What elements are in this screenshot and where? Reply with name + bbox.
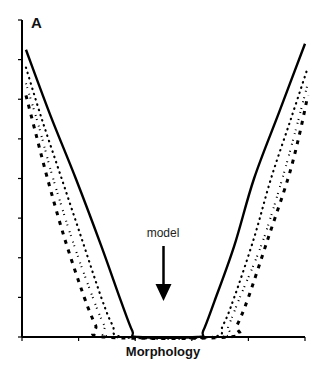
series-group [26,44,308,339]
model-annotation: model [140,226,186,240]
panel-label: A [31,14,42,31]
series-dotted [26,68,308,339]
series-dashed [26,95,308,338]
series-dash-dot [26,83,308,338]
model-arrow-icon [156,246,172,301]
x-axis-label: Morphology [103,344,223,359]
chart-canvas [0,0,322,377]
